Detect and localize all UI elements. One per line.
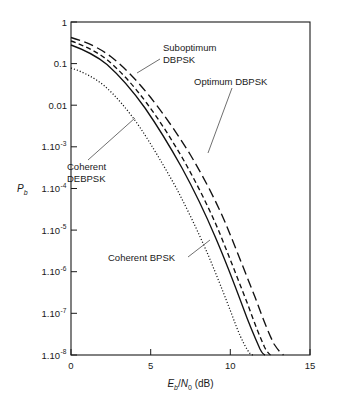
annotation-coherent-debpsk: Coherent DEBPSK [67,161,106,184]
chart-canvas: 1 0.1 0.01 1.10 -3 1.10 -4 1.10 -5 1.10 … [0,0,342,412]
x-tick-label: 15 [305,360,316,371]
x-tick-label: 5 [148,360,153,371]
leader-optimum-dbpsk [208,88,232,153]
x-tick-label: 0 [68,360,73,371]
svg-text:Pb: Pb [17,183,28,196]
ber-chart-figure: 1 0.1 0.01 1.10 -3 1.10 -4 1.10 -5 1.10 … [0,0,342,412]
annotation-suboptimum-dbpsk-line1: Suboptimum [163,42,216,53]
y-axis-title-sub: b [24,189,28,196]
x-tick-label: 10 [225,360,236,371]
y-tick-label: 1.10 [42,266,61,277]
annotation-coherent-debpsk-line1: Coherent [67,161,106,172]
leader-suboptimum-dbpsk [137,59,160,73]
y-tick-label: 1.10 [42,308,61,319]
y-tick-exponent: -6 [61,265,67,272]
x-tick-labels: 0 5 10 15 [68,360,315,371]
x-axis-title-unit: (dB) [195,378,214,389]
curve-optimum-dbpsk [71,41,271,355]
y-tick-exponent: -4 [61,182,67,189]
y-axis-ticks [71,22,77,355]
annotation-optimum-dbpsk: Optimum DBPSK [194,76,268,87]
y-tick-label: 1 [62,17,67,28]
x-axis-title: Eb/N0 (dB) [167,378,213,391]
leader-coherent-debpsk [88,118,135,160]
y-tick-label: 1.10 [42,350,61,361]
y-tick-label: 1.10 [42,225,61,236]
y-tick-labels: 1 0.1 0.01 1.10 -3 1.10 -4 1.10 -5 1.10 … [42,17,68,361]
y-tick-exponent: -5 [61,223,67,230]
y-tick-label: 0.01 [49,100,68,111]
plot-frame [71,22,310,355]
curve-coherent-bpsk [71,68,254,355]
y-tick-exponent: -3 [61,140,67,147]
annotation-coherent-bpsk: Coherent BPSK [108,252,176,263]
curve-coherent-debpsk [71,45,265,355]
svg-text:Eb/N0 (dB): Eb/N0 (dB) [167,378,213,391]
x-axis-ticks [71,349,310,355]
y-tick-label: 0.1 [54,58,67,69]
y-tick-exponent: -7 [61,307,67,314]
y-axis-title: Pb [17,183,28,196]
annotation-optimum-dbpsk-line1: Optimum DBPSK [194,76,268,87]
y-tick-exponent: -8 [61,348,67,355]
y-tick-label: 1.10 [42,183,61,194]
annotation-suboptimum-dbpsk-line2: DBPSK [163,54,196,65]
annotation-suboptimum-dbpsk: Suboptimum DBPSK [163,42,216,65]
annotation-coherent-bpsk-line1: Coherent BPSK [108,252,176,263]
leader-coherent-bpsk [188,240,210,257]
annotation-coherent-debpsk-line2: DEBPSK [67,173,106,184]
y-tick-label: 1.10 [42,141,61,152]
